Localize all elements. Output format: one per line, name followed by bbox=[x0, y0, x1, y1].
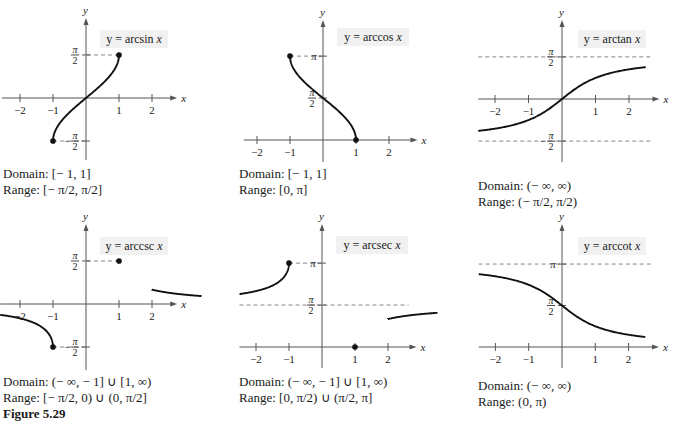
svg-text:−: − bbox=[540, 136, 546, 147]
domain-text: Domain: (− ∞, ∞) bbox=[478, 378, 571, 394]
caption-arcsin: Domain: [− 1, 1]Range: [− π/2, π/2] bbox=[3, 166, 102, 198]
y-axis-arrow-icon bbox=[84, 18, 89, 25]
x-tick-label: −2 bbox=[489, 105, 501, 117]
caption-arctan: Domain: (− ∞, ∞)Range: (− π/2, π/2) bbox=[478, 178, 577, 210]
x-tick-label: 2 bbox=[149, 310, 155, 322]
y-tick-label: π bbox=[72, 250, 78, 261]
endpoint-dot bbox=[353, 137, 359, 143]
x-axis-arrow-icon bbox=[411, 138, 418, 143]
x-axis-arrow-icon bbox=[410, 345, 417, 350]
figure-label: Figure 5.29 bbox=[3, 406, 66, 422]
x-axis-label: x bbox=[180, 92, 186, 104]
plot-arccos: y = arccos xxy−2−112ππ2 bbox=[244, 6, 427, 162]
y-axis-label: y bbox=[82, 210, 88, 222]
function-label: y = arcsin x bbox=[106, 32, 162, 46]
plot-arccot: y = arccot xxy−2−112ππ2 bbox=[479, 210, 668, 368]
x-tick-label: 1 bbox=[116, 310, 122, 322]
plot-arcsin: y = arcsin xxy−2−112π2π2− bbox=[2, 4, 186, 160]
curve-arccsc bbox=[0, 315, 53, 347]
range-text: Range: (− π/2, π/2) bbox=[478, 194, 577, 210]
y-tick-label: π bbox=[72, 130, 78, 141]
x-axis-label: x bbox=[180, 298, 186, 310]
y-axis-arrow-icon bbox=[560, 20, 565, 27]
range-text: Range: (0, π) bbox=[478, 394, 571, 410]
endpoint-dot bbox=[50, 344, 56, 350]
caption-arccos: Domain: [− 1, 1]Range: [0, π] bbox=[239, 166, 326, 198]
y-axis-arrow-icon bbox=[320, 224, 325, 231]
function-label: y = arccot x bbox=[584, 239, 641, 253]
domain-text: Domain: [− 1, 1] bbox=[3, 166, 102, 182]
y-tick-label: 2 bbox=[310, 98, 315, 109]
y-axis-arrow-icon bbox=[84, 224, 89, 231]
x-tick-label: 2 bbox=[626, 105, 632, 117]
svg-text:−: − bbox=[64, 342, 70, 353]
function-label: y = arccos x bbox=[344, 30, 402, 44]
y-tick-label: π bbox=[550, 258, 556, 270]
endpoint-dot bbox=[287, 53, 293, 59]
x-axis-arrow-icon bbox=[170, 302, 177, 307]
x-axis-arrow-icon bbox=[652, 345, 659, 350]
x-tick-label: −1 bbox=[284, 146, 296, 158]
y-axis-label: y bbox=[558, 6, 564, 18]
plot-arccsc: y = arccsc xxy−2−112π2π2− bbox=[0, 210, 201, 370]
x-tick-label: −2 bbox=[251, 146, 263, 158]
x-axis-label: x bbox=[662, 93, 668, 105]
y-tick-label: π bbox=[548, 46, 554, 57]
x-tick-label: 2 bbox=[385, 353, 391, 365]
y-tick-label: 2 bbox=[73, 141, 78, 152]
y-tick-label: 2 bbox=[73, 347, 78, 358]
x-tick-label: 1 bbox=[593, 105, 599, 117]
x-tick-label: 1 bbox=[116, 104, 122, 116]
x-tick-label: 2 bbox=[626, 353, 632, 365]
x-tick-label: −1 bbox=[523, 105, 535, 117]
x-axis-label: x bbox=[420, 341, 426, 353]
plots-canvas: y = arcsin xxy−2−112π2π2−y = arccos xxy−… bbox=[0, 0, 677, 427]
y-tick-label: π bbox=[310, 257, 316, 269]
range-text: Range: [− π/2, π/2] bbox=[3, 182, 102, 198]
x-tick-label: 1 bbox=[593, 353, 599, 365]
plot-arcsec: y = arcsec xxy−2−112ππ2 bbox=[240, 210, 438, 368]
curve-arccsc bbox=[152, 290, 202, 296]
y-tick-label: 2 bbox=[549, 57, 554, 68]
domain-text: Domain: (− ∞, − 1] ∪ [1, ∞) bbox=[3, 374, 151, 390]
svg-text:−: − bbox=[64, 136, 70, 147]
y-axis-label: y bbox=[318, 210, 324, 222]
x-tick-label: −1 bbox=[283, 353, 295, 365]
y-axis-arrow-icon bbox=[321, 20, 326, 27]
y-tick-label: π bbox=[72, 44, 78, 55]
x-tick-label: −2 bbox=[490, 353, 502, 365]
y-axis-label: y bbox=[82, 4, 88, 16]
y-tick-label: 2 bbox=[309, 305, 314, 316]
x-tick-label: −2 bbox=[250, 353, 262, 365]
curve-arcsec bbox=[240, 263, 290, 294]
range-text: Range: [− π/2, 0) ∪ (0, π/2] bbox=[3, 390, 151, 406]
x-tick-label: −1 bbox=[47, 310, 59, 322]
endpoint-dot bbox=[50, 138, 56, 144]
domain-text: Domain: (− ∞, − 1] ∪ [1, ∞) bbox=[239, 374, 387, 390]
x-tick-label: 2 bbox=[386, 146, 392, 158]
y-tick-label: 2 bbox=[73, 261, 78, 272]
x-tick-label: 1 bbox=[352, 353, 358, 365]
x-tick-label: 1 bbox=[353, 146, 359, 158]
y-tick-label: 2 bbox=[549, 306, 554, 317]
function-label: y = arctan x bbox=[584, 32, 641, 46]
caption-arcsec: Domain: (− ∞, − 1] ∪ [1, ∞)Range: [0, π/… bbox=[239, 374, 387, 406]
y-axis-arrow-icon bbox=[560, 224, 565, 231]
y-tick-label: π bbox=[548, 130, 554, 141]
plot-arctan: y = arctan xxy−2−112π2π2− bbox=[478, 6, 668, 162]
endpoint-dot bbox=[116, 52, 122, 58]
y-tick-label: 2 bbox=[73, 55, 78, 66]
y-tick-label: π bbox=[311, 50, 317, 62]
y-tick-label: 2 bbox=[549, 141, 554, 152]
x-axis-label: x bbox=[421, 134, 427, 146]
y-tick-label: π bbox=[72, 336, 78, 347]
endpoint-dot bbox=[352, 344, 358, 350]
caption-arccsc: Domain: (− ∞, − 1] ∪ [1, ∞)Range: [− π/2… bbox=[3, 374, 151, 406]
endpoint-dot bbox=[116, 258, 122, 264]
x-axis-label: x bbox=[662, 341, 668, 353]
function-label: y = arccsc x bbox=[105, 239, 163, 253]
y-axis-label: y bbox=[558, 210, 564, 222]
range-text: Range: [0, π] bbox=[239, 182, 326, 198]
x-tick-label: 2 bbox=[149, 104, 155, 116]
curve-arcsec bbox=[388, 313, 438, 319]
